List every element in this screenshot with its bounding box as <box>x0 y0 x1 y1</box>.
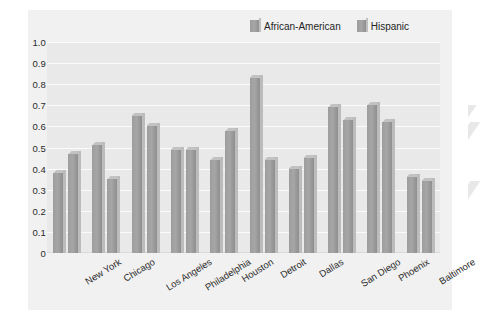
bar-face <box>343 120 353 253</box>
bar <box>107 179 120 253</box>
bar-series-container <box>47 42 440 253</box>
legend-label: Hispanic <box>371 21 409 32</box>
bar <box>367 105 380 253</box>
bar <box>422 181 435 253</box>
bar <box>68 154 81 253</box>
bar-side-face <box>299 166 302 253</box>
bar <box>171 150 184 253</box>
bar-group <box>204 42 243 253</box>
bar-face <box>132 116 142 253</box>
x-axis-tick-label: New York <box>83 256 123 287</box>
bar-group <box>244 42 283 253</box>
bar <box>407 177 420 253</box>
bar-group <box>283 42 322 253</box>
legend-swatch-hispanic <box>357 20 366 32</box>
bar-side-face <box>235 128 238 253</box>
x-axis-tick-label: Dallas <box>317 256 345 279</box>
bar-side-face <box>314 155 317 253</box>
bar-face <box>304 158 314 253</box>
bar-face <box>186 150 196 253</box>
bar <box>328 107 341 253</box>
bar-face <box>210 160 220 253</box>
bar-side-face <box>181 147 184 253</box>
legend-label: African-American <box>264 21 341 32</box>
y-axis-tick-label: 0.8 <box>32 79 46 90</box>
bar <box>382 122 395 253</box>
bar-face <box>92 145 102 253</box>
bar-side-face <box>157 123 160 253</box>
y-axis-tick-label: 0.6 <box>32 121 46 132</box>
y-axis-tick-label: 0.1 <box>32 226 46 237</box>
bar-face <box>68 154 78 253</box>
bar-face <box>367 105 377 253</box>
bar <box>210 160 223 253</box>
bar-side-face <box>63 170 66 253</box>
bar-face <box>147 126 157 253</box>
y-axis-tick-label: 0 <box>41 248 46 259</box>
bar <box>304 158 317 253</box>
bar <box>225 131 238 253</box>
bar <box>92 145 105 253</box>
bar-side-face <box>142 113 145 253</box>
x-axis-tick-label: Chicago <box>122 256 157 284</box>
bar-face <box>107 179 117 253</box>
bar <box>53 173 66 253</box>
bar-side-face <box>260 75 263 253</box>
bar <box>250 78 263 253</box>
bar-side-face <box>353 117 356 253</box>
bar-side-face <box>220 157 223 253</box>
bar-face <box>407 177 417 253</box>
bar-side-face <box>417 174 420 253</box>
y-axis-tick-label: 0.3 <box>32 184 46 195</box>
bar-side-face <box>338 104 341 253</box>
bar-face <box>171 150 181 253</box>
bar-face <box>289 169 299 253</box>
legend-swatch-african-american <box>250 20 259 32</box>
bar-group <box>322 42 361 253</box>
y-axis-tick-label: 0.7 <box>32 100 46 111</box>
bar-side-face <box>117 176 120 253</box>
y-axis-tick-label: 0.9 <box>32 58 46 69</box>
bar-side-face <box>78 151 81 253</box>
bar-group <box>165 42 204 253</box>
bar-group <box>47 42 86 253</box>
bar-side-face <box>275 157 278 253</box>
y-axis-tick-label: 0.5 <box>32 142 46 153</box>
bar <box>289 169 302 253</box>
bar-group <box>401 42 440 253</box>
bar-face <box>250 78 260 253</box>
bar-face <box>53 173 63 253</box>
bar-face <box>382 122 392 253</box>
chart-legend: African-AmericanHispanic <box>250 20 409 32</box>
bar-group <box>126 42 165 253</box>
bar <box>343 120 356 253</box>
bar-face <box>225 131 235 253</box>
bar-face <box>265 160 275 253</box>
bar-side-face <box>432 178 435 253</box>
bar-side-face <box>102 142 105 253</box>
bar <box>265 160 278 253</box>
bar-side-face <box>392 119 395 253</box>
bar <box>186 150 199 253</box>
x-axis: New YorkChicagoLos AngelesPhiladelphiaHo… <box>47 256 440 318</box>
x-axis-tick-label: San Diego <box>359 256 402 289</box>
legend-item: African-American <box>250 20 341 32</box>
y-axis-tick-label: 0.2 <box>32 205 46 216</box>
bar-face <box>328 107 338 253</box>
legend-item: Hispanic <box>357 20 409 32</box>
bar-side-face <box>377 102 380 253</box>
bar <box>132 116 145 253</box>
x-axis-tick-label: Detroit <box>278 256 308 280</box>
y-axis: 00.10.20.30.40.50.60.70.80.91.0 <box>20 42 46 253</box>
y-axis-tick-label: 1.0 <box>32 37 46 48</box>
bar-side-face <box>196 147 199 253</box>
bar-group <box>361 42 400 253</box>
bar-group <box>86 42 125 253</box>
x-axis-tick-label: Phoenix <box>397 256 432 284</box>
bar-face <box>422 181 432 253</box>
bar <box>147 126 160 253</box>
y-axis-tick-label: 0.4 <box>32 163 46 174</box>
